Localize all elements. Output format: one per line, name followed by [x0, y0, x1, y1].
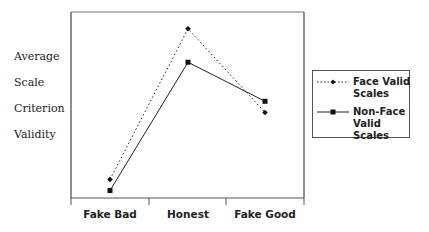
legend-item-non-face-valid: Non-Face Valid Scales [313, 106, 411, 136]
face-valid-line [110, 29, 265, 180]
square-marker [108, 188, 113, 193]
square-marker [263, 99, 268, 104]
legend: Face Valid Scales Non-Face Valid Scales [312, 70, 410, 138]
dotted-line-diamond-icon [313, 75, 353, 105]
non-face-valid-line [110, 62, 265, 190]
x-tick-label-honest: Honest [149, 208, 227, 220]
legend-label-non-face-valid-line-1: Non-Face [353, 106, 405, 118]
legend-item-face-valid: Face Valid Scales [313, 75, 411, 105]
x-tick-label-fake-bad: Fake Bad [71, 208, 149, 220]
legend-label-non-face-valid-line-2: Valid Scales [353, 118, 411, 142]
plot-frame [71, 12, 304, 205]
solid-line-square-icon [313, 106, 353, 136]
legend-label-face-valid-line-2: Scales [353, 88, 389, 100]
square-marker [186, 60, 191, 65]
x-tick-label-fake-good: Fake Good [226, 208, 304, 220]
legend-label-face-valid-line-1: Face Valid [353, 76, 410, 88]
series-group [107, 26, 268, 193]
diamond-marker [107, 177, 113, 183]
